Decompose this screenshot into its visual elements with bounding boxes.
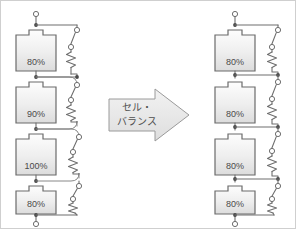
left-switch-1-top-node: [74, 27, 79, 32]
right-resistor-1: [268, 52, 277, 68]
right-cell-1-label: 80%: [226, 57, 244, 67]
left-positive-terminal: [33, 11, 38, 16]
right-cell-2: 80%: [215, 82, 255, 123]
left-switch-1-blade[interactable]: [71, 33, 76, 45]
right-switch-3-bottom-node: [269, 148, 274, 153]
left-balancing-branch-4[interactable]: [69, 181, 82, 215]
right-bottom-lead: [232, 213, 274, 226]
right-node-1: [233, 71, 278, 78]
left-node-2: [34, 123, 38, 131]
right-negative-terminal: [232, 221, 237, 226]
left-resistor-1: [67, 52, 76, 68]
left-negative-terminal: [33, 221, 38, 226]
right-top-lead: [232, 11, 278, 27]
right-switch-2-blade[interactable]: [272, 85, 277, 97]
left-circuit-group: 80% 90% 100%: [16, 11, 82, 226]
left-cell-4-label: 80%: [27, 199, 45, 209]
right-cell-3-label: 80%: [226, 161, 244, 171]
right-balancing-branch-1[interactable]: [268, 25, 281, 77]
right-switch-2-top-node: [275, 79, 280, 84]
left-balancing-branch-3[interactable]: [69, 134, 82, 174]
right-switch-1-blade[interactable]: [272, 33, 277, 45]
right-cell-3: 80%: [215, 134, 255, 175]
left-balancing-branch-1[interactable]: [67, 25, 80, 79]
right-positive-terminal: [232, 11, 237, 16]
left-resistor-4: [69, 203, 78, 213]
arrow-label-line1: セル・: [122, 102, 152, 113]
left-cell-2: 90%: [16, 82, 56, 123]
right-resistor-3: [268, 156, 277, 172]
cell-balancing-diagram: 80% 90% 100%: [0, 0, 296, 229]
right-circuit-group: 80% 80% 80%: [215, 11, 281, 226]
left-switch-3-blade[interactable]: [73, 140, 78, 150]
left-switch-4-top-node: [76, 183, 81, 188]
left-resistor-2: [67, 105, 76, 121]
left-switch-2-blade[interactable]: [71, 88, 76, 98]
left-switch-4-blade[interactable]: [73, 189, 78, 197]
right-cell-1: 80%: [215, 30, 255, 71]
left-branch-3-lead-bottom: [73, 173, 79, 175]
left-resistor-3: [69, 157, 78, 173]
right-cell-4: 80%: [215, 186, 255, 214]
left-cell-4: 80%: [16, 186, 56, 214]
arrow-label-line2: バランス: [117, 116, 157, 127]
right-node-2: [233, 123, 278, 130]
left-switch-4-bottom-node: [70, 196, 75, 201]
left-cell-2-label: 90%: [27, 109, 45, 119]
right-node-3: [233, 175, 278, 182]
right-switch-4-top-node: [275, 183, 280, 188]
left-node-3: [34, 175, 38, 183]
right-resistor-4: [268, 203, 277, 213]
cell-balance-arrow: セル・ バランス: [109, 89, 189, 141]
right-switch-4-bottom-node: [269, 196, 274, 201]
left-switch-3-bottom-node: [70, 149, 75, 154]
right-cell-4-label: 80%: [226, 199, 244, 209]
right-switch-3-top-node: [275, 131, 280, 136]
left-cell-3-label: 100%: [24, 161, 47, 171]
right-balancing-branch-3[interactable]: [268, 127, 281, 181]
left-switch-2-top-node: [74, 82, 79, 87]
left-cell-1: 80%: [16, 30, 56, 71]
right-balancing-branch-4[interactable]: [268, 179, 281, 215]
left-branch-1-bottom-dot: [75, 75, 79, 79]
left-cell-3: 100%: [16, 134, 56, 175]
right-switch-2-bottom-node: [269, 96, 274, 101]
left-cell-1-label: 80%: [27, 57, 45, 67]
right-resistor-2: [268, 104, 277, 120]
left-switch-2-bottom-node: [68, 97, 73, 102]
left-top-lead: [33, 11, 77, 27]
left-switch-1-bottom-node: [68, 44, 73, 49]
right-switch-1-bottom-node: [269, 44, 274, 49]
right-balancing-branch-2[interactable]: [268, 75, 281, 129]
right-cell-2-label: 80%: [226, 109, 244, 119]
left-branch-2-lead-bottom: [71, 121, 77, 123]
left-bottom-lead: [33, 213, 77, 226]
left-balancing-branch-2[interactable]: [67, 82, 80, 122]
right-switch-3-blade[interactable]: [272, 137, 277, 149]
right-switch-4-blade[interactable]: [272, 189, 277, 197]
left-switch-3-top-node: [76, 134, 81, 139]
right-switch-1-top-node: [275, 27, 280, 32]
